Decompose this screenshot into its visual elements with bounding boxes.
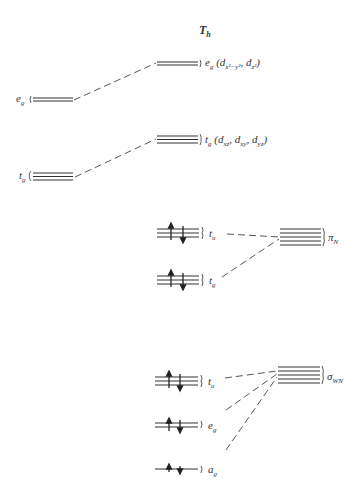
tg-label: tg <box>209 275 216 289</box>
right-eg-label: eg (dx²−y², dz²) <box>205 57 260 71</box>
right-tg-label: tg (dxz, dxy, dyz) <box>205 134 267 148</box>
left-tg-label: tg <box>19 170 26 184</box>
braces <box>29 60 324 473</box>
eg-level <box>155 423 198 427</box>
electron-arrows <box>167 223 186 474</box>
tu-level-lower <box>155 377 198 385</box>
piN-level <box>280 229 321 245</box>
tu-label-lower: tu <box>208 376 215 390</box>
sigmaWN-level <box>278 367 320 383</box>
left-tg-level <box>33 173 73 180</box>
ag-label: ag <box>208 464 217 478</box>
mo-diagram <box>0 0 358 486</box>
right-tg-level <box>157 136 198 143</box>
sigmaWN-label: σWN <box>327 371 343 385</box>
left-eg-level <box>33 98 73 101</box>
piN-label: πN <box>328 232 338 246</box>
left-eg-label: eg <box>16 93 24 107</box>
right-eg-level <box>157 62 198 65</box>
eg-label: eg <box>208 420 216 434</box>
tg-level <box>157 276 199 284</box>
tu-level-upper <box>157 229 199 237</box>
tu-label-upper: tu <box>209 228 216 242</box>
